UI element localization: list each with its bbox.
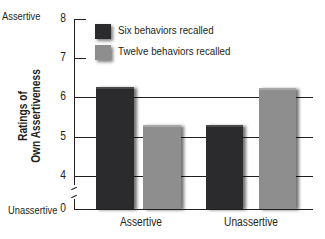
bar-unassertive-twelve <box>259 88 296 209</box>
axis-break-mark-top <box>71 187 77 190</box>
legend-label-six: Six behaviors recalled <box>118 24 214 36</box>
y-axis-line <box>74 19 75 185</box>
y-tick-label-0: 0 <box>54 201 66 215</box>
x-axis-baseline <box>74 209 313 210</box>
y-tick-label-6: 6 <box>54 89 66 103</box>
tick-7 <box>74 58 86 59</box>
y-axis-title-line-2: Own Assertiveness <box>30 69 43 163</box>
legend-swatch-twelve <box>95 45 111 60</box>
bar-assertive-six <box>96 87 134 209</box>
legend-label-twelve: Twelve behaviors recalled <box>118 45 230 57</box>
y-tick-label-4: 4 <box>54 168 66 182</box>
y-tick-label-8: 8 <box>54 11 66 25</box>
bar-assertive-twelve <box>143 125 181 209</box>
y-tick-label-5: 5 <box>54 129 66 143</box>
y-axis-title: Ratings of Own Assertiveness <box>17 69 43 163</box>
tick-8 <box>74 19 86 20</box>
bar-unassertive-six <box>206 125 243 209</box>
y-anchor-bottom-label: Unassertive <box>8 204 57 216</box>
x-category-assertive: Assertive <box>120 215 162 229</box>
y-axis-line-lower <box>74 199 75 209</box>
y-tick-label-7: 7 <box>54 50 66 64</box>
legend-swatch-six <box>95 24 111 39</box>
x-category-unassertive: Unassertive <box>224 215 278 229</box>
axis-break-mark-bottom <box>71 195 77 198</box>
y-anchor-top-label: Assertive <box>2 10 40 22</box>
